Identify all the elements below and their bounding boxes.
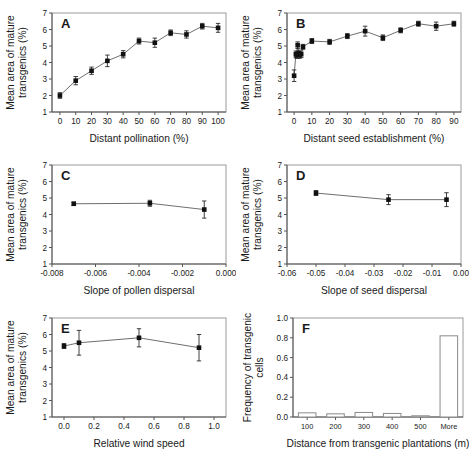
data-point — [202, 207, 207, 212]
x-tick-label: 80 — [432, 117, 442, 126]
x-tick-label: -0.02 — [394, 269, 413, 278]
x-axis-title: Slope of pollen dispersal — [83, 285, 194, 296]
y-tick-label: 0.8 — [277, 334, 289, 343]
y-tick-label: 5 — [277, 42, 282, 51]
x-tick-label: 0.0 — [58, 422, 70, 431]
x-axis-title: Slope of seed dispersal — [321, 285, 427, 296]
y-axis-title-line2: transgenics (%) — [17, 27, 28, 98]
data-point — [216, 26, 221, 31]
y-tick-label: 4 — [42, 211, 47, 220]
x-tick-label: -0.006 — [84, 269, 108, 278]
panel-f: 0.00.20.40.60.81.0100200300400500MoreFDi… — [235, 305, 471, 462]
data-point — [197, 345, 202, 350]
x-axis-title: Distance from transgenic plantations (m) — [287, 438, 470, 449]
x-tick-label: 60 — [150, 117, 160, 126]
data-point — [184, 32, 189, 37]
bar-100 — [298, 413, 316, 417]
panel-f-plot: 0.00.20.40.60.81.0100200300400500MoreFDi… — [235, 305, 471, 462]
y-tick-label: 5 — [42, 194, 47, 203]
y-axis-title: Mean area of maturetransgenics (%) — [5, 320, 28, 415]
panel-letter-b: B — [296, 16, 305, 31]
panel-letter-e: E — [61, 321, 70, 336]
x-tick-label: More — [440, 422, 457, 431]
y-tick-label: 7 — [42, 161, 47, 170]
y-tick-label: 3 — [277, 227, 282, 236]
x-axis-title: Distant seed establishment (%) — [304, 133, 445, 144]
bar-400 — [383, 413, 401, 417]
panel-c: 1234567-0.008-0.006-0.004-0.0020.000CSlo… — [0, 152, 236, 307]
y-axis-title-line1: Mean area of mature — [240, 15, 251, 110]
y-tick-label: 2 — [277, 244, 282, 253]
data-point — [434, 24, 439, 29]
y-tick-label: 2 — [277, 92, 282, 101]
x-tick-label: 10 — [71, 117, 81, 126]
data-point — [292, 73, 297, 78]
x-tick-label: 0.4 — [118, 422, 130, 431]
x-tick-label: 70 — [414, 117, 424, 126]
y-tick-label: 5 — [42, 347, 47, 356]
y-tick-label: 3 — [42, 227, 47, 236]
x-tick-label: 300 — [358, 422, 370, 431]
data-point — [363, 29, 368, 34]
y-axis-title: Mean area of maturetransgenics (%) — [240, 15, 263, 110]
data-point — [168, 31, 173, 36]
panel-d: 1234567-0.06-0.05-0.04-0.03-0.02-0.010.0… — [235, 152, 471, 307]
x-tick-label: 40 — [119, 117, 129, 126]
panel-d-plot: 1234567-0.06-0.05-0.04-0.03-0.02-0.010.0… — [235, 152, 471, 307]
data-point — [153, 40, 158, 45]
data-point — [295, 43, 300, 48]
data-point — [58, 93, 63, 98]
y-tick-label: 1 — [42, 413, 47, 422]
plot-frame — [52, 165, 226, 264]
y-tick-label: 3 — [277, 75, 282, 84]
data-point — [327, 40, 332, 45]
data-point — [71, 201, 76, 206]
x-tick-label: 30 — [343, 117, 353, 126]
y-tick-label: 1.0 — [277, 314, 289, 323]
x-tick-label: 90 — [198, 117, 208, 126]
y-axis-title-line2: transgenics (%) — [17, 179, 28, 250]
x-tick-label: -0.06 — [278, 269, 297, 278]
series-line — [316, 193, 447, 200]
x-tick-label: 200 — [329, 422, 341, 431]
y-tick-label: 6 — [42, 331, 47, 340]
data-point — [301, 45, 306, 50]
x-tick-label: 70 — [166, 117, 176, 126]
x-tick-label: -0.04 — [336, 269, 355, 278]
x-tick-label: 100 — [301, 422, 313, 431]
data-point — [299, 52, 304, 57]
x-tick-label: 0 — [292, 117, 297, 126]
x-tick-label: 20 — [87, 117, 97, 126]
y-axis-title-line1: Mean area of mature — [5, 320, 16, 415]
y-tick-label: 7 — [42, 314, 47, 323]
x-axis-title: Distant pollination (%) — [89, 133, 188, 144]
x-tick-label: 500 — [414, 422, 426, 431]
bar-500 — [412, 416, 430, 417]
y-tick-label: 4 — [277, 59, 282, 68]
panel-c-plot: 1234567-0.008-0.006-0.004-0.0020.000CSlo… — [0, 152, 236, 307]
panel-b-plot: 12345670102030405060708090BDistant seed … — [235, 0, 471, 155]
y-tick-label: 1 — [42, 260, 47, 269]
data-point — [137, 39, 142, 44]
x-tick-label: -0.008 — [40, 269, 64, 278]
y-tick-label: 4 — [277, 211, 282, 220]
panel-a: 12345670102030405060708090100ADistant po… — [0, 0, 236, 155]
y-tick-label: 6 — [277, 26, 282, 35]
y-tick-label: 7 — [277, 9, 282, 18]
y-tick-label: 7 — [277, 161, 282, 170]
x-tick-label: 100 — [211, 117, 225, 126]
y-tick-label: 5 — [42, 42, 47, 51]
y-tick-label: 6 — [42, 178, 47, 187]
plot-frame — [293, 318, 463, 417]
y-tick-label: 3 — [42, 75, 47, 84]
data-point — [62, 344, 67, 349]
x-tick-label: 10 — [307, 117, 317, 126]
data-point — [310, 39, 315, 44]
plot-frame — [287, 165, 461, 264]
data-point — [398, 28, 403, 33]
figure-container: 12345670102030405060708090100ADistant po… — [0, 0, 471, 462]
bar-200 — [327, 414, 345, 417]
y-tick-label: 0.6 — [277, 354, 289, 363]
x-tick-label: -0.01 — [423, 269, 442, 278]
x-tick-label: 40 — [361, 117, 371, 126]
